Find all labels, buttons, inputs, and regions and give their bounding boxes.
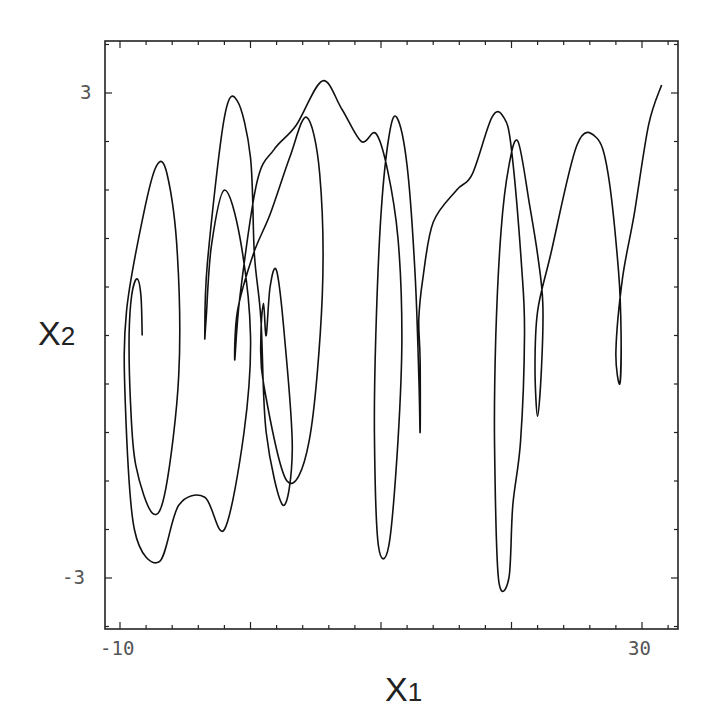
y-axis-label: X2 (38, 314, 75, 353)
y-axis-label-main: X (38, 314, 61, 352)
plot-frame (105, 41, 678, 629)
x-axis-label-main: X (385, 670, 408, 708)
phase-plot (0, 0, 715, 727)
x-tick-label-30: 30 (628, 637, 651, 659)
x-tick-label-minus-10: -10 (100, 637, 134, 659)
y-tick-label-3: 3 (80, 81, 91, 103)
x-axis-label: X1 (385, 670, 422, 709)
x-axis-label-sub: 1 (408, 677, 422, 707)
y-axis-label-sub: 2 (61, 321, 75, 351)
y-tick-label-minus-3: -3 (62, 566, 85, 588)
